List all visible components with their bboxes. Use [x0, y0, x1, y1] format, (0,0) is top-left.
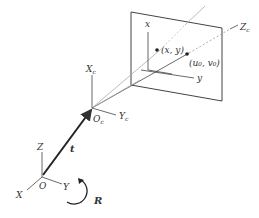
world-z-label: Z — [36, 142, 44, 152]
projection-ray — [92, 50, 160, 108]
principal-point — [185, 52, 189, 56]
world-origin-label: O — [39, 181, 47, 191]
camera-origin-label: Oc — [93, 114, 104, 125]
translation-vector — [43, 110, 91, 175]
rotation-label: R — [93, 195, 102, 206]
camera-y-label: Yc — [119, 111, 129, 122]
world-x-label: X — [15, 190, 23, 200]
world-y-label: Y — [63, 182, 70, 192]
camera-x-label: Xc — [85, 64, 96, 75]
camera-z-label: Zc — [239, 22, 250, 33]
image-point — [155, 48, 159, 52]
image-y-label: y — [196, 73, 203, 83]
rotation-arrow-icon — [67, 180, 87, 204]
image-point-label: (x, y) — [161, 45, 184, 55]
image-y-axis — [141, 70, 194, 78]
principal-point-label: (u₀, v₀) — [189, 58, 220, 68]
translation-label: t — [70, 143, 75, 154]
image-x-label: x — [145, 19, 150, 29]
camera-model-diagram: x y (x, y) (u₀, v₀) Zc Xc Yc Oc t Z Y X … — [0, 0, 259, 218]
